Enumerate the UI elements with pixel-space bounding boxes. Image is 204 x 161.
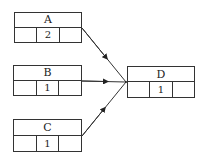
node-a-cell-left [15, 28, 36, 43]
node-c-cells: 1 [14, 136, 81, 152]
node-d: D 1 [127, 66, 195, 98]
node-c-cell-value: 1 [36, 136, 59, 152]
edge-c-to-d [82, 82, 126, 136]
node-c: C 1 [13, 119, 82, 152]
node-b-cells: 1 [14, 81, 81, 96]
node-c-cell-right [58, 136, 81, 152]
node-a-cell-right [59, 28, 81, 43]
edge-b-to-d [82, 81, 126, 82]
node-d-title: D [128, 67, 194, 82]
node-d-cells: 1 [128, 82, 194, 97]
node-b-cell-value: 1 [36, 81, 59, 96]
node-d-cell-value: 1 [149, 82, 171, 97]
node-d-cell-left [128, 82, 149, 97]
node-a-cell-value: 2 [36, 28, 58, 43]
node-c-cell-left [14, 136, 36, 152]
node-b-title: B [14, 66, 81, 81]
node-a: A 2 [14, 12, 82, 43]
edge-a-to-d [82, 28, 126, 82]
node-d-cell-right [172, 82, 194, 97]
node-a-title: A [15, 13, 81, 28]
node-b-cell-right [58, 81, 81, 96]
node-c-title: C [14, 120, 81, 136]
node-a-cells: 2 [15, 28, 81, 43]
node-b: B 1 [13, 65, 82, 96]
node-b-cell-left [14, 81, 36, 96]
